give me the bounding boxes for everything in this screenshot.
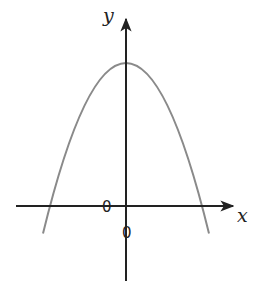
x-axis-label: x — [237, 204, 248, 226]
y-axis-label: y — [102, 4, 114, 26]
parabola-diagram: y x 0 0 — [0, 0, 261, 297]
origin-label-below: 0 — [122, 224, 132, 242]
origin-label-left: 0 — [102, 198, 112, 216]
